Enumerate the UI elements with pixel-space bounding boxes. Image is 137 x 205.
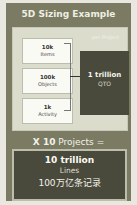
multiplier-factor: X 10 <box>33 137 56 147</box>
per-project-label: per Project <box>92 34 119 40</box>
sizing-card: 5D Sizing Example per Project 10k Items … <box>6 3 131 201</box>
total-label-cn: 100万亿条记录 <box>14 176 125 189</box>
arrow-icon <box>70 76 80 77</box>
connector-line <box>64 43 71 111</box>
card-title: 5D Sizing Example <box>6 9 131 19</box>
total-value: 10 trillion <box>14 155 125 165</box>
multiplier-label: Projects = <box>58 137 104 147</box>
result-value: 1 trillion <box>80 71 129 79</box>
result-label: QTO <box>80 80 129 87</box>
multiplier-text: X 10 Projects = <box>6 137 131 147</box>
qto-result-box: 1 trillion QTO <box>80 51 129 115</box>
total-box: 10 trillion Lines 100万亿条记录 <box>12 149 127 201</box>
total-label: Lines <box>14 166 125 175</box>
input-label: Activity <box>23 111 72 118</box>
